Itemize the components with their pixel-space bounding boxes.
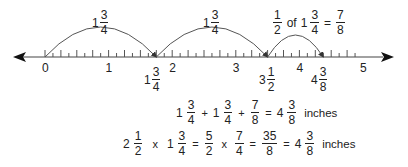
fraction-number-line-diagram: 012345 1 3 4 3 1 2 4 3 8 1 3 4 1 3 4	[0, 0, 408, 167]
denominator: 8	[306, 144, 313, 157]
denominator: 4	[236, 144, 243, 157]
numerator: 3	[187, 99, 196, 113]
fraction: 3 4	[152, 66, 161, 93]
equals-sign: =	[281, 138, 291, 150]
equals-sign: =	[190, 138, 200, 150]
equals-sign: =	[263, 107, 273, 119]
whole-part: 1	[92, 16, 99, 30]
sum-equation: 1 34 + 1 34 + 78 = 4 38 inches	[176, 99, 337, 126]
numerator: 7	[336, 9, 345, 23]
fraction-one-half: 1 2	[273, 9, 282, 36]
numerator: 3	[100, 9, 109, 23]
fraction: 34	[187, 99, 196, 126]
denominator: 8	[288, 113, 295, 126]
numerator: 3	[310, 9, 319, 23]
fraction: 34	[224, 99, 233, 126]
equals-sign: =	[322, 16, 333, 30]
denominator: 4	[311, 23, 318, 36]
whole-part: 4	[295, 137, 302, 151]
whole-part: 1	[167, 137, 174, 151]
fraction-three-quarters: 3 4	[310, 9, 319, 36]
fraction: 12	[134, 130, 143, 157]
integer-label-4: 4	[296, 61, 303, 75]
numerator: 5	[205, 130, 214, 144]
denominator: 4	[212, 23, 219, 36]
point-label-1-3-4: 1 3 4	[144, 66, 161, 93]
numerator: 3	[287, 99, 296, 113]
unit-label: inches	[318, 138, 355, 150]
numerator: 7	[235, 130, 244, 144]
denominator: 2	[135, 144, 142, 157]
whole-part: 1	[203, 16, 210, 30]
unit-label: inches	[300, 107, 337, 119]
denominator: 2	[268, 80, 275, 93]
denominator: 2	[274, 23, 281, 36]
numerator: 1	[134, 130, 143, 144]
of-word: of	[285, 16, 299, 30]
fraction: 1 2	[267, 66, 276, 93]
integer-label-3: 3	[233, 61, 240, 75]
numerator: 3	[319, 66, 328, 80]
numerator: 3	[178, 130, 187, 144]
tick-marks	[45, 50, 355, 57]
fraction: 38	[287, 99, 296, 126]
whole-part: 1	[144, 73, 151, 87]
fraction: 38	[305, 130, 314, 157]
numerator: 3	[152, 66, 161, 80]
numerator: 3	[224, 99, 233, 113]
point-label-4-3-8: 4 3 8	[311, 66, 328, 93]
fraction: 78	[251, 99, 260, 126]
denominator: 8	[266, 144, 273, 157]
fraction-seven-eighths: 7 8	[336, 9, 345, 36]
jump-label-1: 1 3 4	[92, 9, 109, 36]
numerator: 3	[211, 9, 220, 23]
denominator: 4	[101, 23, 108, 36]
numerator: 1	[267, 66, 276, 80]
denominator: 4	[179, 144, 186, 157]
numerator: 35	[262, 130, 277, 144]
fraction: 52	[205, 130, 214, 157]
whole-part: 2	[123, 137, 130, 151]
numerator: 1	[273, 9, 282, 23]
jump-label-3: 1 2 of 1 3 4 = 7 8	[272, 9, 346, 36]
numerator: 7	[251, 99, 260, 113]
fraction: 3 4	[211, 9, 220, 36]
integer-label-2: 2	[169, 61, 176, 75]
fraction: 34	[178, 130, 187, 157]
whole-part: 1	[301, 16, 308, 30]
whole-part: 4	[311, 73, 318, 87]
point-label-3-1-2: 3 1 2	[259, 66, 276, 93]
numerator: 3	[305, 130, 314, 144]
times-sign: x	[146, 138, 164, 150]
whole-part: 1	[213, 106, 220, 120]
integer-label-0: 0	[42, 61, 49, 75]
fraction: 3 4	[100, 9, 109, 36]
whole-part: 4	[277, 106, 284, 120]
equals-sign: =	[248, 138, 258, 150]
denominator: 4	[188, 113, 195, 126]
integer-label-1: 1	[106, 61, 113, 75]
denominator: 8	[320, 80, 327, 93]
whole-part: 1	[176, 106, 183, 120]
integer-label-5: 5	[360, 61, 367, 75]
fraction: 358	[262, 130, 277, 157]
denominator: 8	[252, 113, 259, 126]
product-equation: 2 12 x 1 34 = 52 x 74 = 358 = 4 38 inche…	[123, 130, 355, 157]
fraction: 3 8	[319, 66, 328, 93]
plus-sign: +	[199, 107, 209, 119]
times-sign: x	[217, 138, 231, 150]
denominator: 4	[153, 80, 160, 93]
denominator: 4	[225, 113, 232, 126]
denominator: 2	[206, 144, 213, 157]
fraction: 74	[235, 130, 244, 157]
whole-part: 3	[259, 73, 266, 87]
jump-label-2: 1 3 4	[203, 9, 220, 36]
denominator: 8	[337, 23, 344, 36]
plus-sign: +	[236, 107, 246, 119]
